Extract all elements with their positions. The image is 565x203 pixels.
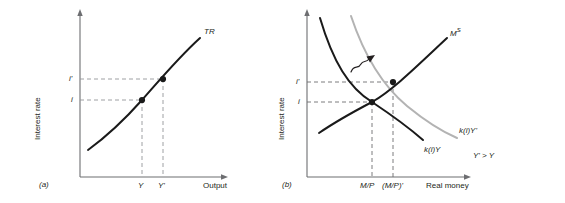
panel-b-y-axis-label: Interest rate [278, 97, 286, 140]
y-axis-arrowhead [304, 9, 309, 16]
panel-a-xtick-Yprime: Y' [158, 182, 165, 190]
panel-a-ytick-iprime: i' [69, 75, 72, 83]
x-axis-arrowhead [221, 174, 228, 179]
point-Y-i [139, 97, 145, 103]
point-MPprime-iprime [390, 79, 396, 85]
panel-b-tag: (b) [282, 181, 292, 189]
curve-TR [88, 38, 200, 150]
y-axis-arrowhead [77, 9, 82, 16]
annotation-Yprime-greater-Y: Y' > Y [473, 152, 494, 160]
panel-a-xtick-Y: Y [138, 182, 143, 190]
figure-container: Interest rate i' i Y Y' Output TR (a) [0, 0, 565, 203]
panel-b-plot [283, 0, 565, 203]
curve-money-supply [319, 38, 447, 133]
panel-b-x-axis-label: Real money [426, 182, 469, 190]
curve-label-money-supply: MS [450, 27, 461, 38]
point-Yprime-iprime [160, 76, 166, 82]
x-axis-arrowhead [464, 174, 471, 179]
panel-a-ytick-i: i [71, 96, 73, 104]
panel-b: Interest rate i' i M/P (M/P)' Real money… [283, 0, 565, 203]
point-MP-i [369, 99, 375, 105]
panel-a-y-axis-label: Interest rate [34, 97, 42, 140]
panel-b-xtick-MP: M/P [360, 182, 374, 190]
panel-b-xtick-MPprime: (M/P)' [382, 182, 403, 190]
panel-a-plot [0, 0, 283, 203]
curve-label-money-supply-base: M [450, 29, 457, 38]
panel-b-ytick-iprime: i' [296, 78, 299, 86]
panel-a-x-axis-label: Output [203, 182, 227, 190]
panel-a: Interest rate i' i Y Y' Output TR (a) [0, 0, 283, 203]
curve-label-k-i-Y: k(i)Y [424, 146, 440, 154]
curve-label-money-supply-sup: S [457, 27, 461, 33]
curve-label-TR: TR [204, 28, 215, 36]
panel-b-ytick-i: i [298, 98, 300, 106]
panel-a-tag: (a) [39, 181, 49, 189]
curve-label-k-i-Y-prime: k(i)Y' [459, 127, 477, 135]
